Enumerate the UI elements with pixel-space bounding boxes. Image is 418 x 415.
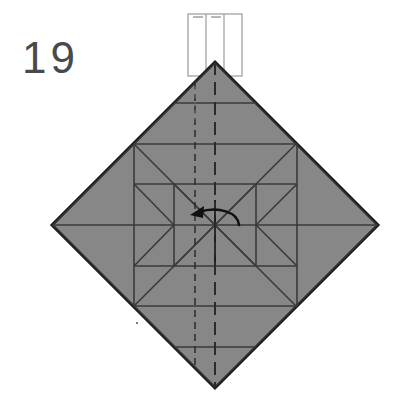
origami-diagram-figure: 19 xyxy=(0,0,418,415)
origami-diagram-canvas xyxy=(0,0,418,415)
scan-speck xyxy=(136,322,138,324)
